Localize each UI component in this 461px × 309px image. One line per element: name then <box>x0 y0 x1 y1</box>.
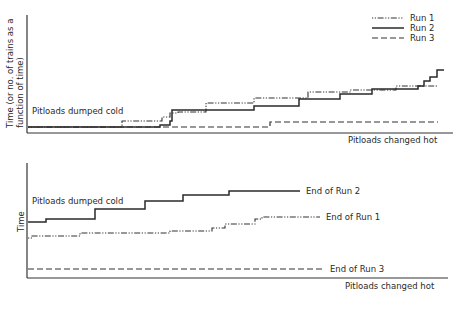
top-y-axis-label-line1: Time (or no. of trains as a <box>5 19 15 129</box>
bottom-panel: Time Pitloads dumped cold Pitloads chang… <box>16 163 448 291</box>
legend-label-run2: Run 2 <box>410 23 434 33</box>
end-of-run1-label: End of Run 1 <box>326 212 380 222</box>
top-series-run2 <box>28 70 444 127</box>
top-inline-label: Pitloads dumped cold <box>32 106 123 116</box>
top-x-axis-label: Pitloads changed hot <box>348 135 438 145</box>
legend: Run 1 Run 2 Run 3 <box>372 13 434 43</box>
figure: Time (or no. of trains as a function of … <box>0 0 461 309</box>
bottom-series-run1 <box>28 217 320 238</box>
end-of-run2-label: End of Run 2 <box>306 186 360 196</box>
top-panel: Time (or no. of trains as a function of … <box>5 13 453 145</box>
legend-label-run3: Run 3 <box>410 33 434 43</box>
bottom-x-axis-label: Pitloads changed hot <box>345 281 435 291</box>
legend-label-run1: Run 1 <box>410 13 434 23</box>
top-y-axis-label-line2: function of time) <box>15 57 25 128</box>
bottom-y-axis-label: Time <box>16 211 26 233</box>
bottom-inline-label: Pitloads dumped cold <box>32 196 123 206</box>
end-of-run3-label: End of Run 3 <box>330 264 384 274</box>
